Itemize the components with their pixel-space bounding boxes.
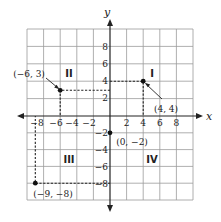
x-axis-label: x	[206, 110, 213, 123]
svg-text:−6: −6	[49, 118, 63, 128]
projection-lines	[35, 81, 143, 183]
svg-text:−8: −8	[30, 118, 44, 128]
svg-text:4: 4	[140, 118, 146, 128]
svg-text:2: 2	[102, 93, 108, 103]
point-neg9-neg8	[33, 181, 38, 186]
svg-text:4: 4	[102, 76, 108, 86]
y-axis-label: y	[103, 6, 111, 19]
point-label-neg9-neg8: (−9, −8)	[33, 189, 72, 199]
quadrant-label-IV: IV	[146, 154, 158, 165]
point-0-neg2	[108, 130, 113, 135]
coordinate-plane: x y −8 −6 −4 −2 2 4 6 8 8 6 4 2 −2 −4 −6…	[0, 0, 221, 222]
quadrant-label-III: III	[63, 154, 74, 165]
y-axis-arrow-up-icon	[107, 19, 113, 26]
point-label-neg6-3: (−6, 3)	[13, 69, 45, 79]
svg-text:−2: −2	[82, 118, 95, 128]
x-axis-arrow-right-icon	[196, 113, 203, 119]
svg-text:8: 8	[174, 118, 180, 128]
svg-text:−2: −2	[95, 128, 108, 138]
svg-text:−6: −6	[95, 162, 109, 172]
quadrant-label-II: II	[65, 68, 72, 79]
quadrant-label-I: I	[150, 68, 154, 79]
x-axis-arrow-left-icon	[17, 113, 24, 119]
point-label-0-neg2: (0, −2)	[116, 137, 148, 147]
leader-arrow-icon	[145, 83, 150, 87]
svg-text:6: 6	[102, 59, 108, 69]
svg-text:−4: −4	[65, 118, 79, 128]
x-tick-labels: −8 −6 −4 −2 2 4 6 8	[30, 118, 179, 128]
y-axis-arrow-down-icon	[107, 205, 113, 212]
point-label-4-4: (4, 4)	[154, 104, 178, 114]
svg-text:8: 8	[102, 42, 108, 52]
svg-text:2: 2	[124, 118, 130, 128]
svg-text:−4: −4	[95, 145, 109, 155]
svg-text:6: 6	[157, 118, 163, 128]
